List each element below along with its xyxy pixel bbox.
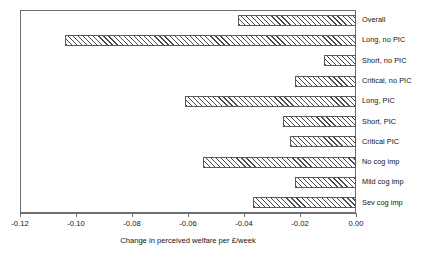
bar[interactable] — [238, 15, 356, 26]
bar[interactable] — [203, 157, 356, 168]
bar[interactable] — [283, 116, 356, 127]
category-label: Short, no PIC — [362, 51, 406, 71]
category-label: Long, no PIC — [362, 30, 405, 50]
bar[interactable] — [295, 76, 356, 87]
x-tick-label: -0.10 — [67, 219, 84, 228]
category-label: No cog imp — [362, 152, 399, 172]
category-label: Long, PIC — [362, 91, 395, 111]
category-label: Critical, no PIC — [362, 71, 411, 91]
x-tick-label: 0.00 — [349, 219, 364, 228]
category-label: Mild cog imp — [362, 172, 404, 192]
category-label: Sev cog imp — [362, 193, 403, 213]
bar[interactable] — [185, 96, 356, 107]
category-label: Critical PIC — [362, 132, 399, 152]
bar[interactable] — [65, 35, 356, 46]
x-tick — [356, 213, 357, 217]
bar[interactable] — [295, 177, 356, 188]
category-label: Short, PIC — [362, 112, 396, 132]
x-tick-label: -0.04 — [235, 219, 252, 228]
x-tick-label: -0.06 — [179, 219, 196, 228]
bar-chart: OverallLong, no PICShort, no PICCritical… — [0, 0, 429, 260]
x-tick-label: -0.08 — [123, 219, 140, 228]
x-tick-label: -0.12 — [11, 219, 28, 228]
x-axis-line — [20, 213, 356, 214]
category-label: Overall — [362, 10, 385, 30]
bar[interactable] — [290, 136, 356, 147]
x-axis-title: Change in perceived welfare per £/week — [20, 236, 356, 245]
bar[interactable] — [253, 197, 356, 208]
x-tick-label: -0.02 — [291, 219, 308, 228]
bar[interactable] — [324, 55, 356, 66]
